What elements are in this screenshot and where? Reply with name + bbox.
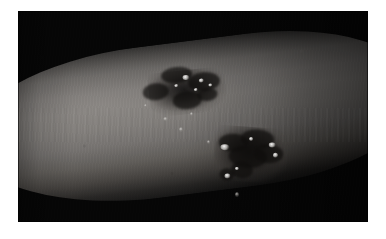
clinical-photograph	[18, 11, 368, 222]
skin-papule	[207, 140, 210, 144]
page-root	[0, 0, 386, 239]
skin-papule	[190, 112, 193, 116]
skin-papule	[144, 104, 147, 107]
skin-papule	[163, 117, 168, 121]
